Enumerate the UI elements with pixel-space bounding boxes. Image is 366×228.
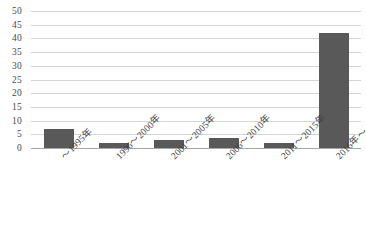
ytick-label-45: 45 xyxy=(0,21,22,31)
ytick-label-25: 25 xyxy=(0,76,22,86)
x-axis-labels: ～1995年 1996～2000年 2001～2005年 2006～2010年 … xyxy=(31,150,361,228)
xlabel-slot-1: 1996～2000年 xyxy=(86,150,141,228)
bar-slot-0 xyxy=(31,11,86,148)
xlabel-slot-0: ～1995年 xyxy=(31,150,86,228)
ytick-label-15: 15 xyxy=(0,103,22,113)
bar-slot-1 xyxy=(86,11,141,148)
ytick-label-20: 20 xyxy=(0,89,22,99)
ytick-label-40: 40 xyxy=(0,34,22,44)
ytick-label-10: 10 xyxy=(0,117,22,127)
ytick-label-0: 0 xyxy=(0,144,22,154)
xlabel-slot-2: 2001～2005年 xyxy=(141,150,196,228)
xlabel-slot-5: 2016年～ xyxy=(306,150,361,228)
ytick-label-50: 50 xyxy=(0,7,22,17)
bar-5 xyxy=(319,33,349,148)
xlabel-slot-3: 2006～2010年 xyxy=(196,150,251,228)
bar-chart: 50 45 40 35 30 25 20 15 10 5 0 xyxy=(0,0,366,228)
ytick-label-30: 30 xyxy=(0,62,22,72)
ytick-label-5: 5 xyxy=(0,130,22,140)
ytick-label-35: 35 xyxy=(0,48,22,58)
xlabel-slot-4: 2011～2015年 xyxy=(251,150,306,228)
